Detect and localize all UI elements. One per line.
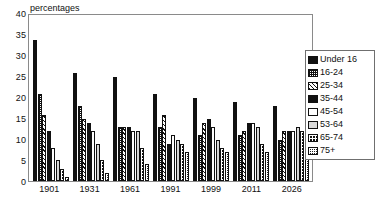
bar — [220, 148, 224, 181]
y-axis-tick-label: 35 — [0, 31, 26, 40]
solid-black-swatch — [308, 95, 318, 103]
bar — [105, 173, 109, 181]
bar — [278, 140, 282, 182]
bar — [273, 106, 277, 181]
bar — [185, 152, 189, 181]
bar — [238, 135, 242, 181]
y-axis-tick-label: 25 — [0, 73, 26, 82]
bar — [296, 127, 300, 181]
bar — [131, 131, 135, 181]
bar — [176, 140, 180, 182]
legend-item[interactable]: 75+ — [308, 144, 372, 157]
bar — [180, 144, 184, 181]
bar — [247, 123, 251, 181]
bar — [291, 131, 295, 181]
legend-item-label: 53-64 — [320, 120, 343, 129]
bar — [60, 169, 64, 181]
y-axis-tick-label: 5 — [0, 157, 26, 166]
bar — [47, 131, 51, 181]
y-axis-tick-label: 40 — [0, 10, 26, 19]
y-axis-tick-label: 0 — [0, 178, 26, 187]
bar — [158, 127, 162, 181]
legend-item-label: Under 16 — [320, 55, 357, 64]
bar-group — [31, 15, 71, 181]
bar — [38, 94, 42, 181]
bar — [193, 98, 197, 181]
bar-group — [111, 15, 151, 181]
fine-grid-swatch — [308, 69, 318, 77]
x-axis-tick-label: 1991 — [150, 184, 190, 194]
bar-group — [191, 15, 231, 181]
x-axis-tick-label: 1999 — [191, 184, 231, 194]
legend-item[interactable]: Under 16 — [308, 53, 372, 66]
bar — [78, 106, 82, 181]
y-axis-tick-label: 30 — [0, 52, 26, 61]
bar — [282, 131, 286, 181]
diagonal-hatch-swatch — [308, 82, 318, 90]
bar — [265, 152, 269, 181]
legend-item-label: 65-74 — [320, 133, 343, 142]
x-axis-tick-label: 1901 — [29, 184, 69, 194]
x-axis-tick-label: 1931 — [69, 184, 109, 194]
bar — [171, 135, 175, 181]
bar — [51, 148, 55, 181]
y-axis-title: percentages — [30, 3, 80, 13]
bar — [96, 144, 100, 181]
legend-item[interactable]: 35-44 — [308, 92, 372, 105]
bar — [56, 160, 60, 181]
bar — [82, 119, 86, 181]
bar — [256, 127, 260, 181]
legend-item-label: 35-44 — [320, 94, 343, 103]
coarse-checker-swatch — [308, 134, 318, 142]
bar — [202, 123, 206, 181]
bar-chart: percentages 4035302520151050 19011931196… — [0, 0, 380, 215]
bar — [33, 40, 37, 181]
bar-groups — [31, 15, 310, 181]
legend-item[interactable]: 65-74 — [308, 131, 372, 144]
bar — [122, 127, 126, 181]
bar-group — [151, 15, 191, 181]
bar — [91, 131, 95, 181]
y-axis-tick-label: 15 — [0, 115, 26, 124]
solid-black-swatch — [308, 56, 318, 64]
bar — [42, 115, 46, 181]
x-axis: 1901193119611991199920112026 — [29, 184, 312, 194]
legend: Under 1616-2425-3435-4445-5453-6465-7475… — [305, 50, 375, 160]
bar — [216, 140, 220, 182]
bar — [167, 144, 171, 181]
bar — [287, 131, 291, 181]
bar — [207, 119, 211, 181]
bar — [113, 77, 117, 181]
bar — [127, 127, 131, 181]
legend-item[interactable]: 25-34 — [308, 79, 372, 92]
bar — [87, 123, 91, 181]
bar — [100, 160, 104, 181]
x-axis-tick-label: 2026 — [272, 184, 312, 194]
bar — [251, 123, 255, 181]
bar — [153, 94, 157, 181]
y-axis-tick-label: 20 — [0, 94, 26, 103]
bar-group — [231, 15, 271, 181]
legend-item-label: 45-54 — [320, 107, 343, 116]
y-axis: 4035302520151050 — [0, 14, 26, 182]
legend-item[interactable]: 53-64 — [308, 118, 372, 131]
bar — [65, 177, 69, 181]
plot-area — [29, 15, 312, 181]
y-axis-tick-label: 10 — [0, 136, 26, 145]
legend-item[interactable]: 45-54 — [308, 105, 372, 118]
bar — [242, 131, 246, 181]
bar — [145, 164, 149, 181]
bar-group — [71, 15, 111, 181]
legend-item-label: 16-24 — [320, 68, 343, 77]
bar — [233, 102, 237, 181]
bar — [260, 144, 264, 181]
bar — [211, 127, 215, 181]
legend-item[interactable]: 16-24 — [308, 66, 372, 79]
light-grey-swatch — [308, 121, 318, 129]
legend-item-label: 25-34 — [320, 81, 343, 90]
legend-item-label: 75+ — [320, 146, 335, 155]
bar — [225, 152, 229, 181]
x-axis-tick-label: 2011 — [231, 184, 271, 194]
bar — [140, 148, 144, 181]
bar — [136, 131, 140, 181]
